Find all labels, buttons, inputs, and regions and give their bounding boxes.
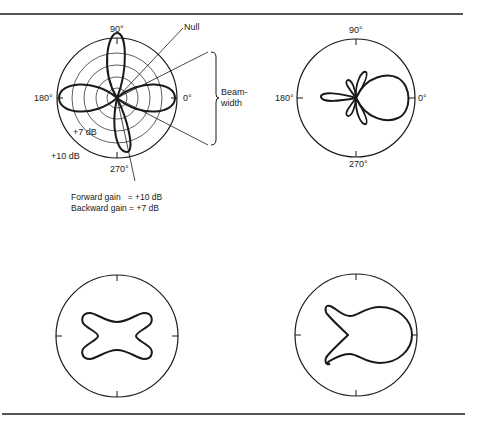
label-beam: Beam-: [221, 87, 248, 97]
label-width: width: [220, 98, 242, 108]
polar-plot-four-lobe: [57, 28, 219, 181]
label-90: 90°: [110, 24, 124, 34]
label-270-right: 270°: [349, 159, 368, 169]
label-null: Null: [184, 22, 200, 32]
polar-plot-fish-shape: [295, 274, 417, 396]
backward-gain-caption: Backward gain = +7 dB: [71, 203, 159, 214]
label-0: 0°: [183, 93, 192, 103]
forward-gain-caption: Forward gain = +10 dB: [71, 192, 162, 203]
label-plus10db: +10 dB: [51, 151, 80, 161]
label-180-right: 180°: [275, 93, 294, 103]
label-90-right: 90°: [349, 25, 363, 35]
label-180: 180°: [34, 93, 53, 103]
polar-plot-x-shape: [56, 275, 178, 397]
label-0-right: 0°: [418, 93, 427, 103]
polar-plot-directional: [297, 39, 415, 157]
label-270: 270°: [110, 164, 129, 174]
label-plus7db: +7 dB: [73, 127, 97, 137]
